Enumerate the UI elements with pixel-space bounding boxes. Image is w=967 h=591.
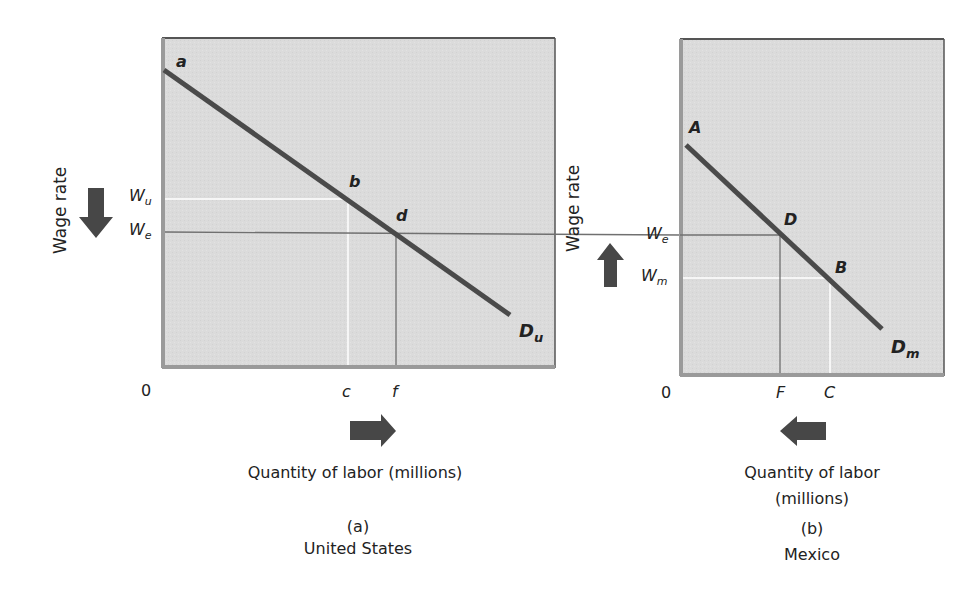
us-point-b: b xyxy=(349,172,360,191)
wu-sub: u xyxy=(145,195,152,208)
us-curve-label: Du xyxy=(519,320,543,341)
us-wage-down-arrow-icon xyxy=(79,188,113,238)
mx-point-D: D xyxy=(784,210,797,229)
us-we-label: We xyxy=(129,220,152,239)
mx-origin-label: 0 xyxy=(661,383,671,402)
us-y-axis-label: Wage rate xyxy=(50,167,70,254)
us-panel xyxy=(162,38,680,368)
us-wu-label: Wu xyxy=(129,186,152,205)
us-labor-right-arrow-icon xyxy=(350,414,396,447)
mx-point-A: A xyxy=(689,118,701,137)
us-country-title: United States xyxy=(258,538,458,560)
wm-main: W xyxy=(641,266,657,285)
mx-plot-area xyxy=(680,39,944,376)
mx-x-axis-label-line1: Quantity of labor xyxy=(712,462,912,484)
mx-wm-label: Wm xyxy=(641,266,668,285)
us-x-axis-label: Quantity of labor (millions) xyxy=(200,462,510,484)
du-main: D xyxy=(519,320,534,341)
we-sub: e xyxy=(145,229,152,242)
mexico-panel xyxy=(680,39,944,376)
mx-tick-F: F xyxy=(776,383,785,402)
mx-labor-left-arrow-icon xyxy=(780,416,826,446)
wm-sub: m xyxy=(657,275,668,288)
we-main: W xyxy=(129,220,145,239)
mx-we-label: We xyxy=(646,224,669,243)
mx-country-title: Mexico xyxy=(712,544,912,566)
us-panel-label: (a) xyxy=(258,516,458,538)
mx-panel-label: (b) xyxy=(712,518,912,540)
mx-point-B: B xyxy=(835,258,847,277)
dm-sub: m xyxy=(906,346,920,361)
wu-main: W xyxy=(129,186,145,205)
dm-main: D xyxy=(891,336,906,357)
us-origin-label: 0 xyxy=(141,381,151,400)
mx-x-axis-label-line2: (millions) xyxy=(712,488,912,510)
mx-curve-label: Dm xyxy=(891,336,920,357)
mx-we-sub: e xyxy=(662,233,669,246)
us-tick-c: c xyxy=(342,382,351,401)
us-tick-f: f xyxy=(392,382,398,401)
du-sub: u xyxy=(534,330,543,345)
us-point-a: a xyxy=(176,52,187,71)
us-point-d: d xyxy=(396,206,407,225)
mx-y-axis-label: Wage rate xyxy=(563,165,583,252)
mx-wage-up-arrow-icon xyxy=(597,243,624,287)
mx-we-main: W xyxy=(646,224,662,243)
us-plot-area xyxy=(162,38,555,368)
mx-tick-C: C xyxy=(824,383,835,402)
